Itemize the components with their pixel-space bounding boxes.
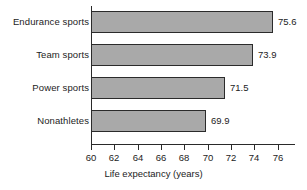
bar-team-sports: [91, 44, 253, 66]
x-tick-label-60: 60: [79, 152, 103, 163]
x-axis-title: Life expectancy (years): [0, 168, 307, 179]
bar-value-team-sports: 73.9: [258, 49, 277, 60]
category-label-power-sports: Power sports: [5, 83, 89, 93]
x-tick-70: [208, 145, 209, 150]
x-tick-label-74: 74: [242, 152, 266, 163]
x-tick-62: [114, 145, 115, 150]
x-tick-label-66: 66: [149, 152, 173, 163]
category-label-team-sports: Team sports: [5, 50, 89, 60]
bar-value-power-sports: 71.5: [230, 82, 249, 93]
x-tick-68: [184, 145, 185, 150]
bar-endurance-sports: [91, 11, 273, 33]
bar-power-sports: [91, 77, 225, 99]
category-label-endurance-sports: Endurance sports: [5, 17, 89, 27]
x-tick-label-64: 64: [126, 152, 150, 163]
x-tick-72: [231, 145, 232, 150]
x-tick-60: [91, 145, 92, 150]
bar-nonathletes: [91, 110, 206, 132]
x-tick-label-70: 70: [196, 152, 220, 163]
x-tick-66: [161, 145, 162, 150]
x-tick-label-72: 72: [219, 152, 243, 163]
x-tick-64: [138, 145, 139, 150]
x-tick-label-62: 62: [102, 152, 126, 163]
bar-value-endurance-sports: 75.6: [278, 16, 297, 27]
x-tick-label-68: 68: [172, 152, 196, 163]
bar-value-nonathletes: 69.9: [211, 115, 230, 126]
x-axis-line: [91, 144, 295, 145]
x-tick-label-76: 76: [266, 152, 290, 163]
x-tick-74: [254, 145, 255, 150]
x-tick-76: [278, 145, 279, 150]
plot-area: 60 62 64 66 68 70 72 74 76 75.6 73.9 71.…: [91, 6, 295, 144]
category-label-nonathletes: Nonathletes: [5, 116, 89, 126]
bar-chart: Endurance sports Team sports Power sport…: [0, 0, 307, 190]
